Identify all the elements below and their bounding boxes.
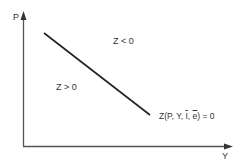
diagram-canvas [0,0,241,164]
z-equals-zero-line [44,33,150,115]
curve-label-suffix: ) = 0 [197,111,214,121]
y-axis-label: P [13,13,19,22]
x-axis-arrow-icon [224,144,233,150]
region-label-above: Z < 0 [113,37,134,46]
x-axis-label: Y [222,152,228,161]
curve-label: Z(P, Y, I, e) = 0 [159,112,215,121]
curve-label-prefix: Z(P, Y, [159,111,185,121]
y-axis-arrow-icon [21,11,27,20]
region-label-below: Z > 0 [56,83,77,92]
